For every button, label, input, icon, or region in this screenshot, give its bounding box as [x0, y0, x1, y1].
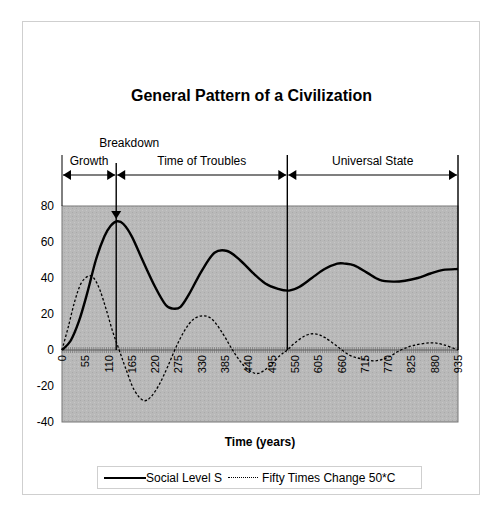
x-tick-label: 220 [149, 355, 161, 373]
x-tick-label: 715 [359, 355, 371, 373]
y-axis: 806040200-20-40 [37, 199, 55, 429]
y-tick-label: 80 [41, 199, 55, 213]
breakdown-label: Breakdown [99, 136, 159, 150]
x-tick-label: 110 [103, 355, 115, 373]
legend-solid-line-icon [104, 477, 146, 479]
arrowhead-left-icon [117, 170, 125, 180]
x-tick-label: 770 [382, 355, 394, 373]
x-tick-label: 880 [429, 355, 441, 373]
arrowhead-right-icon [449, 170, 457, 180]
x-tick-label: 0 [56, 355, 68, 361]
y-tick-label: -20 [37, 379, 55, 393]
x-tick-label: 825 [405, 355, 417, 373]
y-tick-label: 20 [41, 307, 55, 321]
x-tick-label: 440 [242, 355, 254, 373]
x-tick-label: 330 [196, 355, 208, 373]
x-tick-label: 935 [452, 355, 464, 373]
x-axis-title: Time (years) [62, 435, 458, 449]
legend: Social Level S Fifty Times Change 50*C [97, 466, 422, 489]
legend-dashed-line-icon [228, 477, 258, 478]
legend-label-change: Fifty Times Change 50*C [262, 471, 395, 485]
x-tick-label: 550 [289, 355, 301, 373]
y-tick-label: 60 [41, 235, 55, 249]
arrowhead-left-icon [288, 170, 296, 180]
phase-label-universal: Universal State [332, 154, 414, 168]
phase-label-growth: Growth [70, 154, 109, 168]
y-tick-label: 40 [41, 271, 55, 285]
arrowhead-right-icon [278, 170, 286, 180]
x-tick-label: 660 [336, 355, 348, 373]
legend-label-social-level: Social Level S [146, 471, 222, 485]
x-tick-label: 55 [79, 355, 91, 367]
y-tick-label: -40 [37, 415, 55, 429]
x-tick-label: 385 [219, 355, 231, 373]
phase-label-troubles: Time of Troubles [157, 154, 246, 168]
x-tick-label: 275 [172, 355, 184, 373]
x-tick-label: 495 [266, 355, 278, 373]
x-tick-label: 165 [126, 355, 138, 373]
arrowhead-right-icon [107, 170, 115, 180]
plot-background [62, 206, 458, 422]
arrowhead-left-icon [63, 170, 71, 180]
x-tick-label: 605 [312, 355, 324, 373]
y-tick-label: 0 [47, 343, 54, 357]
